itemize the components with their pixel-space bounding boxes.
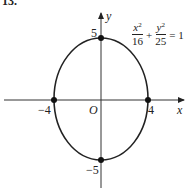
right-vertex-label: 4 [148,104,154,116]
ellipse-equation: x2 16 + y2 25 = 1 [132,22,184,47]
point-left [51,97,57,103]
left-vertex-label: −4 [38,104,51,116]
fraction-y: y2 25 [155,22,166,47]
origin-label: O [89,104,98,116]
point-bottom [98,157,104,163]
top-vertex-label: 5 [91,27,97,39]
point-top [98,35,104,41]
y-axis-label: y [106,10,111,22]
x-axis-label: x [177,104,182,116]
fraction-x: x2 16 [132,22,143,47]
bottom-vertex-label: −5 [86,164,99,176]
